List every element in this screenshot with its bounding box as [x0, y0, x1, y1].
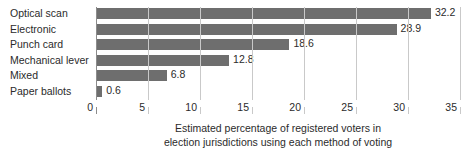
bar-row: 6.8: [96, 69, 460, 85]
gridline: [148, 7, 149, 100]
value-axis-line: [96, 7, 97, 100]
gridline: [408, 7, 409, 100]
bars-layer: 32.2 28.9 18.6 12.8 6.8 0.6: [96, 7, 460, 100]
category-axis-labels: Optical scan Electronic Punch card Mecha…: [0, 7, 90, 100]
bar-row: 28.9: [96, 23, 460, 39]
bar: [96, 70, 167, 81]
category-label: Paper ballots: [0, 85, 90, 101]
category-label: Mixed: [0, 69, 90, 85]
bar-value-label: 6.8: [167, 68, 186, 81]
axis-tick-label: 5: [139, 101, 148, 114]
bar-value-label: 32.2: [431, 6, 455, 19]
bar-row: 32.2: [96, 7, 460, 23]
category-label: Electronic: [0, 23, 90, 39]
gridline: [304, 7, 305, 100]
category-label: Punch card: [0, 38, 90, 54]
axis-caption: Estimated percentage of registered voter…: [96, 121, 460, 149]
value-axis-tick-labels: 05101520253035: [0, 101, 476, 115]
plot-area: 32.2 28.9 18.6 12.8 6.8 0.6: [96, 7, 460, 100]
axis-tick-label: 15: [237, 101, 252, 114]
axis-tick-label: 20: [289, 101, 304, 114]
axis-tick-label: 30: [393, 101, 408, 114]
bar-row: 12.8: [96, 54, 460, 70]
bar-row: 18.6: [96, 38, 460, 54]
category-label: Optical scan: [0, 7, 90, 23]
axis-caption-line-2: election jurisdictions using each method…: [96, 135, 460, 149]
bar-row: 0.6: [96, 85, 460, 101]
bar-value-label: 12.8: [229, 53, 253, 66]
bar-value-label: 18.6: [289, 37, 313, 50]
axis-tick-label: 35: [445, 101, 460, 114]
bar: [96, 39, 289, 50]
category-label: Mechanical lever: [0, 54, 90, 70]
gridline: [252, 7, 253, 100]
axis-caption-line-1: Estimated percentage of registered voter…: [96, 121, 460, 135]
gridline: [460, 7, 461, 100]
gridline: [200, 7, 201, 100]
axis-tick-label: 0: [87, 101, 96, 114]
bar: [96, 24, 397, 35]
axis-tick-label: 10: [185, 101, 200, 114]
bar: [96, 8, 431, 19]
bar-value-label: 0.6: [102, 84, 121, 97]
bar: [96, 55, 229, 66]
bar-chart: Optical scan Electronic Punch card Mecha…: [0, 0, 476, 159]
axis-tick-label: 25: [341, 101, 356, 114]
gridline: [356, 7, 357, 100]
